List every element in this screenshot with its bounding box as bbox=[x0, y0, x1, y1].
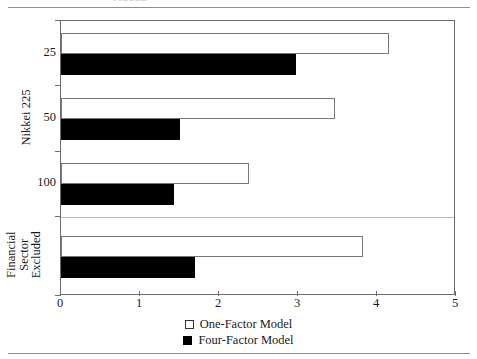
top-rule-divider bbox=[8, 7, 470, 8]
bar-one-factor bbox=[61, 33, 389, 54]
legend-entry-one-factor: One-Factor Model bbox=[185, 316, 293, 332]
plot-area bbox=[60, 20, 455, 295]
bar-four-factor bbox=[61, 257, 195, 278]
panel-divider bbox=[61, 217, 454, 218]
legend-row-four-factor: Four-Factor Model bbox=[0, 332, 477, 348]
legend-label-one-factor: One-Factor Model bbox=[200, 317, 293, 331]
y-tick-label: 100 bbox=[37, 176, 56, 189]
y-group-label-financial-line1: Financial bbox=[3, 231, 17, 278]
y-group-label-financial-line2: Sector bbox=[16, 238, 30, 270]
bar-four-factor bbox=[61, 119, 180, 140]
figure-container: FIGURE Nikkei 225 Financial Sector Exclu… bbox=[0, 0, 477, 359]
x-axis-ticks: 012345 bbox=[60, 296, 455, 314]
x-tick-label: 5 bbox=[452, 296, 458, 310]
x-tick-label: 2 bbox=[215, 296, 221, 310]
y-group-label-nikkei: Nikkei 225 bbox=[20, 20, 33, 216]
y-group-label-financial-line3: Excluded bbox=[28, 231, 42, 278]
bottom-rule-divider bbox=[8, 353, 470, 354]
bar-four-factor bbox=[61, 184, 174, 205]
chart-legend: One-Factor Model Four-Factor Model bbox=[0, 316, 477, 348]
bar-one-factor bbox=[61, 98, 335, 119]
clipped-caption-text: FIGURE bbox=[113, 0, 233, 2]
bar-one-factor bbox=[61, 163, 249, 184]
legend-swatch-four-factor-icon bbox=[183, 336, 192, 345]
legend-label-four-factor: Four-Factor Model bbox=[198, 333, 293, 347]
y-tick-label: 50 bbox=[44, 111, 57, 124]
x-tick-label: 1 bbox=[136, 296, 142, 310]
x-tick-label: 3 bbox=[294, 296, 300, 310]
legend-row-one-factor: One-Factor Model bbox=[0, 316, 477, 332]
legend-swatch-one-factor-icon bbox=[185, 320, 194, 329]
bar-four-factor bbox=[61, 54, 296, 75]
bar-one-factor bbox=[61, 236, 363, 257]
x-tick-label: 0 bbox=[57, 296, 63, 310]
y-group-label-financial-sector-excluded: Financial Sector Excluded bbox=[4, 205, 42, 304]
legend-entry-four-factor: Four-Factor Model bbox=[183, 332, 293, 348]
y-tick-label: 25 bbox=[44, 46, 57, 59]
x-tick-label: 4 bbox=[373, 296, 379, 310]
